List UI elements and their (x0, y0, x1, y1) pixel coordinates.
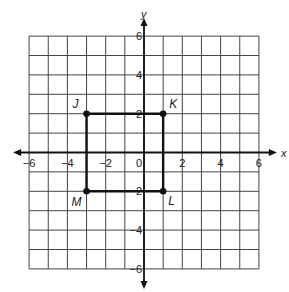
x-tick-label: 2 (179, 157, 185, 169)
x-axis-label: x (280, 147, 287, 159)
x-tick-label: 4 (218, 157, 224, 169)
axes: xy (13, 8, 287, 289)
y-tick-label: −4 (129, 224, 142, 236)
coordinate-plane: xy −6−4−20246642−2−4−6 JKLM (0, 0, 289, 292)
vertex-point-m (83, 188, 90, 195)
vertex-label-k: K (169, 97, 178, 111)
y-tick-label: 4 (136, 69, 142, 81)
y-tick-label: −6 (129, 263, 142, 275)
x-tick-label: −4 (61, 157, 74, 169)
vertex-point-j (83, 110, 90, 117)
vertex-point-k (160, 110, 167, 117)
x-axis-arrow-left-icon (13, 149, 21, 156)
x-axis-arrow-right-icon (269, 149, 277, 156)
y-axis-arrow-down-icon (141, 281, 148, 289)
x-tick-label: 0 (136, 157, 142, 169)
vertex-point-l (160, 188, 167, 195)
x-tick-label: 6 (256, 157, 262, 169)
vertex-label-m: M (72, 195, 82, 209)
y-tick-label: 6 (136, 30, 142, 42)
x-tick-label: −2 (99, 157, 112, 169)
vertex-label-l: L (168, 194, 175, 208)
x-tick-label: −6 (23, 157, 36, 169)
y-axis-label: y (140, 8, 148, 20)
vertex-label-j: J (72, 97, 80, 111)
